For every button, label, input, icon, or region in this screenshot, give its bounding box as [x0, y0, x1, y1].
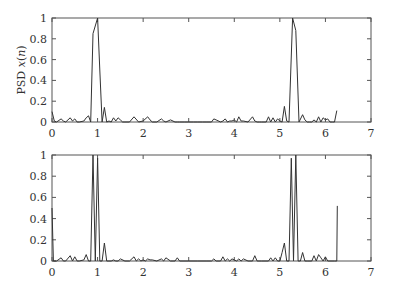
y-tick-label: 0.4: [30, 213, 48, 226]
y-tick-label: 0.6: [30, 54, 48, 67]
x-tick-label: 1: [94, 127, 101, 140]
x-tick-label: 3: [185, 127, 192, 140]
x-tick-label: 5: [276, 127, 283, 140]
x-tick-label: 0: [49, 266, 56, 279]
y-tick-label: 0.8: [30, 33, 48, 46]
x-tick-label: 5: [276, 266, 283, 279]
psd-line: [52, 18, 337, 122]
y-axis-label: PSD x(n): [15, 45, 28, 94]
y-tick-label: 0.6: [30, 191, 48, 204]
x-tick-label: 7: [368, 127, 375, 140]
x-tick-label: 3: [185, 266, 192, 279]
bottom-psd-panel: 0123456700.20.40.60.81: [30, 149, 375, 279]
x-tick-label: 7: [368, 266, 375, 279]
y-tick-label: 0.2: [30, 95, 48, 108]
y-tick-label: 1: [40, 12, 47, 25]
psd-line: [52, 155, 337, 261]
top-psd-panel: 0123456700.20.40.60.81PSD x(n): [15, 12, 375, 140]
x-tick-label: 2: [140, 266, 147, 279]
x-tick-label: 0: [49, 127, 56, 140]
y-tick-label: 0.4: [30, 74, 48, 87]
x-tick-label: 6: [322, 127, 329, 140]
x-tick-label: 4: [231, 127, 238, 140]
figure: 0123456700.20.40.60.81PSD x(n) 012345670…: [0, 0, 393, 292]
y-tick-label: 0: [40, 255, 47, 268]
y-tick-label: 0: [40, 116, 47, 129]
x-tick-label: 1: [94, 266, 101, 279]
x-tick-label: 4: [231, 266, 238, 279]
x-tick-label: 2: [140, 127, 147, 140]
x-tick-label: 6: [322, 266, 329, 279]
y-tick-label: 1: [40, 149, 47, 162]
y-tick-label: 0.8: [30, 170, 48, 183]
y-tick-label: 0.2: [30, 234, 48, 247]
